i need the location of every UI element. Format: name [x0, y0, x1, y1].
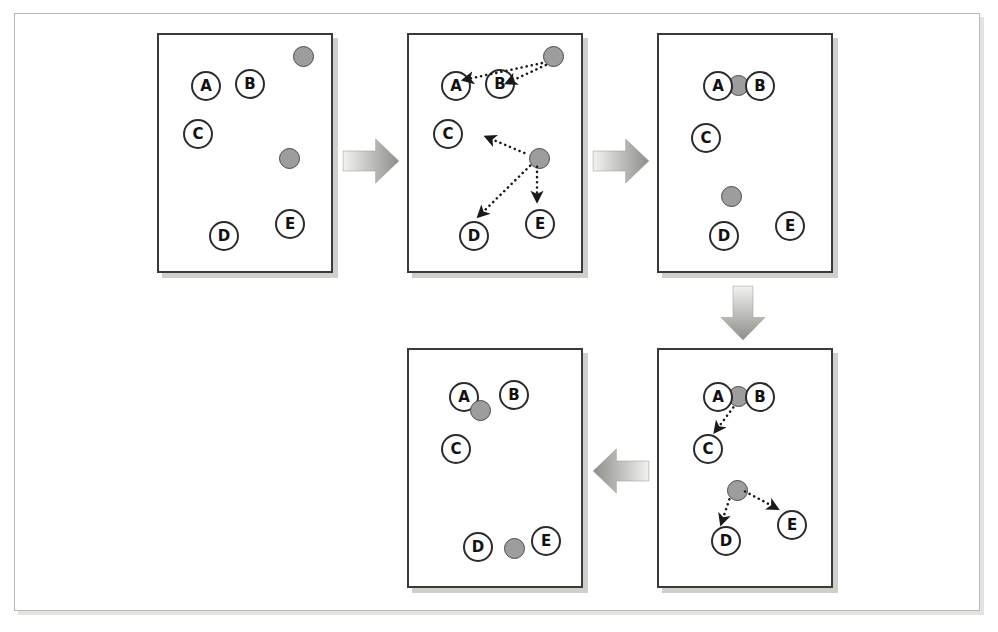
- node-a[interactable]: A: [191, 71, 221, 101]
- node-label: C: [450, 442, 461, 457]
- node-c[interactable]: C: [441, 434, 471, 464]
- node-b[interactable]: B: [745, 71, 775, 101]
- node-d[interactable]: D: [711, 526, 741, 556]
- connector-1-right-icon: [342, 136, 400, 186]
- propagation-arrow-token-2-to-D: [722, 499, 730, 522]
- node-d[interactable]: D: [463, 532, 493, 562]
- propagation-arrow-token-2-to-E: [745, 491, 776, 508]
- node-label: B: [754, 79, 765, 94]
- token-circle[interactable]: [504, 538, 525, 559]
- node-e[interactable]: E: [525, 209, 555, 239]
- node-label: B: [508, 388, 519, 403]
- panel-4[interactable]: ABCDE: [657, 348, 833, 588]
- node-label: D: [720, 534, 732, 549]
- node-label: E: [541, 534, 551, 549]
- token-circle[interactable]: [279, 148, 300, 169]
- node-label: B: [754, 390, 765, 405]
- node-e[interactable]: E: [775, 211, 805, 241]
- diagram-canvas: ABCDEABCDEABCDEABCDEABCDE: [0, 0, 998, 632]
- propagation-arrow-token-2-to-C: [487, 137, 524, 153]
- node-label: D: [718, 229, 730, 244]
- token-circle[interactable]: [543, 46, 564, 67]
- node-label: A: [200, 79, 212, 94]
- node-e[interactable]: E: [531, 526, 561, 556]
- node-b[interactable]: B: [235, 69, 265, 99]
- node-label: D: [468, 229, 480, 244]
- panel-1[interactable]: ABCDE: [157, 33, 333, 273]
- node-label: B: [494, 77, 505, 92]
- connector-2-right-icon: [592, 136, 650, 186]
- node-a[interactable]: A: [703, 382, 733, 412]
- connector-4-left-icon: [592, 446, 650, 496]
- propagation-arrow-token-2-to-D: [479, 166, 530, 216]
- token-circle[interactable]: [529, 148, 550, 169]
- node-e[interactable]: E: [275, 209, 305, 239]
- panel-5[interactable]: ABCDE: [407, 348, 583, 588]
- panel-3[interactable]: ABCDE: [657, 33, 833, 273]
- node-label: D: [472, 540, 484, 555]
- node-label: A: [712, 390, 724, 405]
- token-circle[interactable]: [721, 186, 742, 207]
- node-b[interactable]: B: [745, 382, 775, 412]
- node-label: A: [458, 390, 470, 405]
- node-c[interactable]: C: [183, 119, 213, 149]
- node-d[interactable]: D: [709, 221, 739, 251]
- node-c[interactable]: C: [693, 434, 723, 464]
- panel-2[interactable]: ABCDE: [407, 33, 583, 273]
- node-c[interactable]: C: [433, 119, 463, 149]
- node-label: C: [700, 131, 711, 146]
- token-circle[interactable]: [727, 480, 748, 501]
- node-label: B: [244, 77, 255, 92]
- node-label: C: [702, 442, 713, 457]
- node-label: C: [442, 127, 453, 142]
- node-label: A: [450, 79, 462, 94]
- connector-3-down-icon: [718, 285, 768, 341]
- node-label: E: [785, 219, 795, 234]
- node-label: C: [192, 127, 203, 142]
- node-e[interactable]: E: [777, 510, 807, 540]
- node-b[interactable]: B: [485, 69, 515, 99]
- node-d[interactable]: D: [209, 221, 239, 251]
- node-label: E: [285, 217, 295, 232]
- node-c[interactable]: C: [691, 123, 721, 153]
- node-label: A: [712, 79, 724, 94]
- token-circle[interactable]: [470, 400, 491, 421]
- node-b[interactable]: B: [499, 380, 529, 410]
- node-d[interactable]: D: [459, 221, 489, 251]
- node-label: E: [535, 217, 545, 232]
- node-label: E: [787, 518, 797, 533]
- dotted-arrow-layer: [659, 350, 831, 586]
- node-a[interactable]: A: [703, 71, 733, 101]
- node-a[interactable]: A: [441, 71, 471, 101]
- node-label: D: [218, 229, 230, 244]
- token-circle[interactable]: [293, 46, 314, 67]
